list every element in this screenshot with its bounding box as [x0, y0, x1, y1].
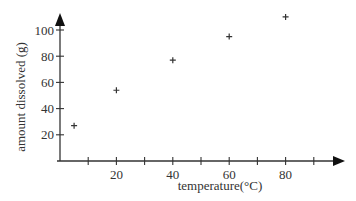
data-point-plus-icon	[170, 57, 176, 63]
data-point-plus-icon	[71, 123, 77, 129]
y-axis-arrow-icon	[55, 13, 65, 26]
x-axis-label: temperature(°C)	[178, 178, 263, 193]
data-point-plus-icon	[113, 87, 119, 93]
y-tick-label: 100	[35, 23, 55, 38]
y-tick-label: 60	[41, 75, 54, 90]
y-tick-label: 20	[41, 127, 54, 142]
data-point-plus-icon	[283, 14, 289, 20]
x-tick-label: 80	[279, 167, 292, 182]
y-tick-label: 80	[41, 49, 54, 64]
y-tick-label: 40	[41, 101, 54, 116]
x-tick-label: 20	[110, 167, 123, 182]
data-point-plus-icon	[226, 34, 232, 40]
y-axis-label: amount dissolved (g)	[13, 42, 28, 152]
x-axis-arrow-icon	[333, 156, 345, 166]
scatter-chart: 2040608020406080100temperature(°C)amount…	[0, 0, 356, 201]
